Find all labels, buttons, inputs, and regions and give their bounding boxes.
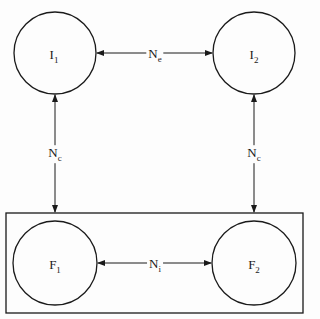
node-F2-label: F2: [246, 257, 262, 275]
node-I1-label: I1: [48, 47, 61, 65]
node-F1-label: F1: [47, 257, 63, 275]
edge-Ne-label: Ne: [146, 46, 163, 64]
edge-Nc-right-label: Nc: [245, 145, 262, 163]
node-I2-label: I2: [248, 47, 261, 65]
edge-Nc-left-label: Nc: [46, 145, 63, 163]
edge-Ni-label: Ni: [147, 256, 163, 274]
